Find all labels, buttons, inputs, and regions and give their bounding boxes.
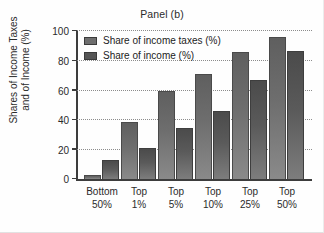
bar bbox=[139, 148, 156, 179]
y-tick-label: 60 bbox=[58, 85, 69, 96]
y-tick-label: 100 bbox=[52, 26, 69, 37]
y-tick-mark bbox=[72, 89, 77, 90]
legend-swatch bbox=[84, 52, 97, 60]
y-axis-line bbox=[76, 31, 78, 181]
y-tick-label: 0 bbox=[63, 174, 69, 185]
legend-label: Share of income (%) bbox=[103, 50, 194, 61]
x-tick-label: Top 50% bbox=[262, 186, 312, 211]
chart-title: Panel (b) bbox=[0, 8, 324, 20]
bar bbox=[102, 160, 119, 179]
bar bbox=[232, 52, 249, 179]
bar bbox=[176, 128, 193, 180]
bar bbox=[121, 122, 138, 180]
bar-group bbox=[232, 31, 268, 179]
y-tick-mark bbox=[72, 30, 77, 31]
legend-item: Share of income (%) bbox=[84, 49, 221, 62]
bar bbox=[158, 91, 175, 180]
bar bbox=[195, 74, 212, 179]
x-axis-line bbox=[76, 179, 312, 181]
bar bbox=[250, 80, 267, 179]
y-tick-label: 20 bbox=[58, 144, 69, 155]
chart-figure: Panel (b) Shares of Income Taxes and of … bbox=[0, 0, 324, 233]
bar bbox=[287, 51, 304, 180]
chart-legend: Share of income taxes (%)Share of income… bbox=[84, 34, 221, 62]
legend-item: Share of income taxes (%) bbox=[84, 34, 221, 47]
y-axis-title: Shares of Income Taxes and of Income (%) bbox=[8, 5, 32, 135]
y-tick-mark bbox=[72, 148, 77, 149]
y-tick-mark bbox=[72, 60, 77, 61]
bar bbox=[213, 111, 230, 179]
legend-label: Share of income taxes (%) bbox=[103, 35, 221, 46]
y-tick-label: 40 bbox=[58, 115, 69, 126]
y-tick-mark bbox=[72, 178, 77, 179]
bar-group bbox=[269, 31, 305, 179]
legend-swatch bbox=[84, 37, 97, 45]
y-tick-label: 80 bbox=[58, 56, 69, 67]
bar bbox=[84, 175, 101, 179]
bar bbox=[269, 37, 286, 179]
y-tick-mark bbox=[72, 119, 77, 120]
